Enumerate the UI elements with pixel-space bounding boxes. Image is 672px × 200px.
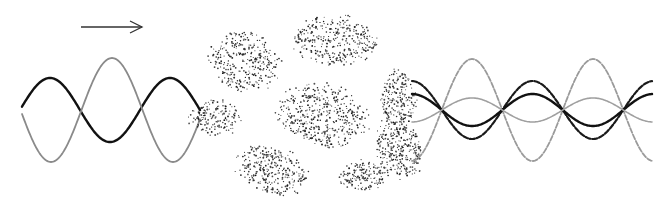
scatter-blob — [207, 32, 282, 93]
outgoing-waves — [412, 59, 652, 161]
scatter-blob — [339, 159, 391, 190]
incident-waves — [22, 58, 200, 162]
scatter-blob — [293, 15, 377, 66]
black-wave — [22, 78, 200, 142]
gray-dashed-wave — [412, 59, 652, 161]
wave-scattering-diagram — [0, 0, 672, 200]
scatter-blob — [376, 121, 421, 180]
scatter-blob — [275, 82, 370, 148]
direction-arrow — [81, 21, 142, 33]
scattering-medium — [188, 15, 421, 197]
gray-wave — [22, 58, 200, 162]
scatter-blob — [235, 145, 310, 196]
